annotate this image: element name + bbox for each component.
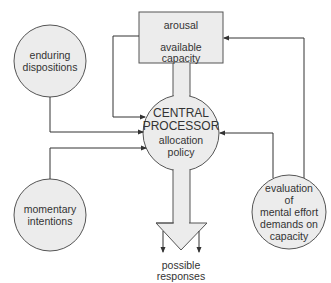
enduring-label-1: enduring xyxy=(10,49,90,61)
central-label-3: allocation xyxy=(141,134,221,146)
evaluation-label-2: of xyxy=(251,194,327,206)
enduring-label-2: dispositions xyxy=(10,61,90,73)
evaluation-label-1: evaluation xyxy=(251,182,327,194)
central-label-4: policy xyxy=(141,146,221,158)
evaluation-label-5: capacity xyxy=(251,230,327,242)
momentary-to-processor-arrow xyxy=(50,148,146,179)
responses-label-2: responses xyxy=(141,270,221,282)
evaluation-label-3: mental effort xyxy=(251,206,327,218)
momentary-label-2: intentions xyxy=(10,215,90,227)
evaluation-to-processor-arrow xyxy=(220,133,273,178)
enduring-to-processor-arrow xyxy=(50,97,143,132)
arousal-label: arousal xyxy=(139,19,223,31)
central-label-2: PROCESSOR xyxy=(141,120,221,133)
output-stem xyxy=(173,165,190,223)
evaluation-to-capacity-arrow xyxy=(224,38,304,178)
evaluation-label-4: demands on xyxy=(251,218,327,230)
momentary-label-1: momentary xyxy=(10,203,90,215)
available-capacity-label-2: capacity xyxy=(139,52,223,64)
